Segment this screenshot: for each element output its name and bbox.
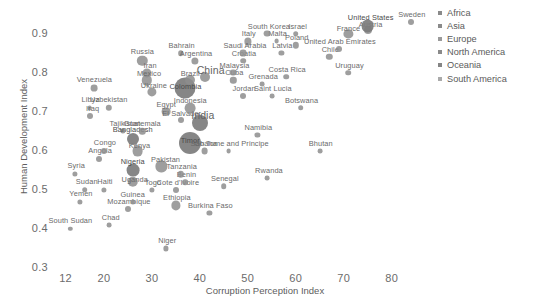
- data-point[interactable]: [265, 176, 270, 181]
- data-point[interactable]: [183, 179, 189, 185]
- data-point[interactable]: [230, 69, 237, 76]
- x-tick-label: 70: [329, 272, 359, 284]
- data-point-label: Mexico: [137, 69, 161, 78]
- data-point[interactable]: [207, 211, 212, 216]
- x-axis-title: Corruption Perception Index: [150, 285, 380, 296]
- data-point-label: Namibia: [244, 123, 272, 132]
- data-point-label: United Arab Emirates: [304, 37, 376, 46]
- data-point-label: Malta: [268, 29, 287, 38]
- legend-swatch-icon: [438, 11, 442, 15]
- data-point-label: South Sudan: [48, 216, 92, 225]
- data-point[interactable]: [240, 50, 247, 57]
- data-point[interactable]: [260, 82, 265, 87]
- data-point-label: Ukraine: [141, 81, 167, 90]
- legend-swatch-icon: [438, 50, 442, 54]
- legend-item-europe[interactable]: Europe: [438, 32, 533, 45]
- data-point-label: Bhutan: [309, 139, 333, 148]
- data-point[interactable]: [125, 206, 131, 212]
- y-axis-title: Human Development Index: [18, 67, 29, 207]
- legend-label: Europe: [447, 34, 477, 44]
- y-tick-label: 0.3: [14, 261, 48, 273]
- data-point-label: Cote d'Ivoire: [157, 178, 200, 187]
- legend-swatch-icon: [438, 63, 442, 67]
- data-point-label: Chad: [102, 213, 120, 222]
- data-point[interactable]: [279, 50, 284, 55]
- data-point-label: Iran: [144, 61, 157, 70]
- legend-label: North America: [447, 47, 505, 57]
- data-point[interactable]: [201, 147, 208, 154]
- x-tick-label: 80: [377, 272, 407, 284]
- data-point[interactable]: [82, 187, 88, 193]
- data-point[interactable]: [274, 39, 279, 44]
- data-point-label: Niger: [158, 236, 176, 245]
- data-point-label: Sudan: [76, 177, 98, 186]
- legend-swatch-icon: [438, 77, 442, 81]
- x-tick-label: 30: [137, 272, 167, 284]
- data-point[interactable]: [221, 183, 227, 189]
- data-point[interactable]: [326, 54, 332, 60]
- data-point[interactable]: [101, 148, 107, 154]
- legend-item-south-america[interactable]: South America: [438, 72, 533, 85]
- data-point[interactable]: [106, 223, 111, 228]
- data-point-label: Saudi Arabia: [223, 41, 266, 50]
- legend-item-africa[interactable]: Africa: [438, 6, 533, 19]
- data-point-label: Sao Tome and Principe: [190, 139, 268, 148]
- data-point-label: Yemen: [69, 189, 92, 198]
- data-point-label: Ethiopia: [163, 193, 191, 202]
- x-tick-label: 50: [233, 272, 263, 284]
- data-point[interactable]: [336, 46, 342, 52]
- data-point[interactable]: [77, 199, 82, 204]
- data-point-label: Congo: [94, 138, 116, 147]
- legend-swatch-icon: [438, 37, 442, 41]
- data-point-label: Guinea: [120, 190, 144, 199]
- data-point[interactable]: [87, 113, 93, 119]
- data-point[interactable]: [298, 105, 304, 111]
- data-point[interactable]: [240, 93, 246, 99]
- data-point[interactable]: [226, 148, 231, 153]
- legend-swatch-icon: [438, 24, 442, 28]
- data-point[interactable]: [293, 42, 299, 48]
- data-point[interactable]: [264, 30, 271, 37]
- data-point-label: Israel: [288, 22, 307, 31]
- data-point[interactable]: [240, 58, 246, 64]
- data-point-label: United States: [348, 13, 394, 22]
- legend-item-north-america[interactable]: North America: [438, 46, 533, 59]
- data-point[interactable]: [96, 156, 102, 162]
- data-point[interactable]: [230, 77, 236, 83]
- data-point[interactable]: [164, 246, 169, 251]
- data-point[interactable]: [346, 70, 352, 76]
- data-point-label: Botswana: [285, 96, 318, 105]
- data-point[interactable]: [106, 105, 112, 111]
- data-point[interactable]: [269, 94, 274, 99]
- data-point[interactable]: [127, 133, 139, 145]
- legend-item-oceania[interactable]: Oceania: [438, 59, 533, 72]
- data-point[interactable]: [408, 19, 414, 25]
- x-tick-label: 60: [281, 272, 311, 284]
- data-point-label: Venezuela: [77, 75, 112, 84]
- legend-label: Asia: [447, 21, 465, 31]
- data-point-label: Sweden: [398, 10, 425, 19]
- data-point-label: Senegal: [211, 174, 239, 183]
- legend-item-asia[interactable]: Asia: [438, 19, 533, 32]
- x-tick-label: 12: [51, 272, 81, 284]
- data-point[interactable]: [293, 31, 299, 37]
- data-point-label: France: [337, 24, 361, 33]
- data-point-label: Grenada: [248, 72, 277, 81]
- data-point-label: Guatemala: [124, 119, 161, 128]
- y-tick-label: 0.4: [14, 222, 48, 234]
- data-point[interactable]: [255, 133, 260, 138]
- data-point[interactable]: [68, 227, 72, 231]
- data-point-label: Syria: [68, 161, 85, 170]
- data-point-label: Nigeria: [121, 157, 145, 166]
- x-tick-label: 40: [185, 272, 215, 284]
- data-point[interactable]: [101, 187, 106, 192]
- data-point[interactable]: [317, 148, 322, 153]
- data-point[interactable]: [173, 187, 179, 193]
- x-tick-label: 20: [89, 272, 119, 284]
- legend: AfricaAsiaEuropeNorth AmericaOceaniaSout…: [438, 6, 533, 85]
- data-point-label: Rwanda: [255, 166, 283, 175]
- data-point[interactable]: [91, 85, 98, 92]
- data-point[interactable]: [149, 187, 154, 192]
- data-point-label: South Korea: [248, 22, 290, 31]
- data-point[interactable]: [283, 74, 289, 80]
